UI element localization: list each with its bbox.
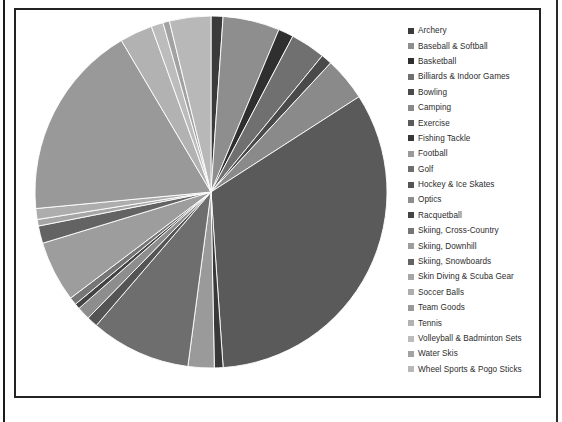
legend-swatch-icon <box>408 259 414 265</box>
legend-item-label: Basketball <box>418 57 456 66</box>
legend-swatch-icon <box>408 305 414 311</box>
legend-swatch-icon <box>408 320 414 326</box>
legend-swatch-icon <box>408 135 414 141</box>
chart-frame: ArcheryBaseball & SoftballBasketballBill… <box>14 8 541 398</box>
legend-swatch-icon <box>408 228 414 234</box>
legend-swatch-icon <box>408 274 414 280</box>
legend-item[interactable]: Skin Diving & Scuba Gear <box>408 269 538 284</box>
legend-item[interactable]: Golf <box>408 162 538 177</box>
legend-item[interactable]: Soccer Balls <box>408 285 538 300</box>
legend-item-label: Skiing, Snowboards <box>418 257 491 266</box>
legend-item-label: Skiing, Cross-Country <box>418 226 499 235</box>
legend-item-label: Exercise <box>418 119 450 128</box>
legend-swatch-icon <box>408 151 414 157</box>
legend-swatch-icon <box>408 182 414 188</box>
page-canvas: ArcheryBaseball & SoftballBasketballBill… <box>0 0 562 422</box>
legend-item-label: Hockey & Ice Skates <box>418 180 495 189</box>
legend-swatch-icon <box>408 58 414 64</box>
legend-item-label: Soccer Balls <box>418 288 464 297</box>
legend-item[interactable]: Skiing, Downhill <box>408 238 538 253</box>
legend-item[interactable]: Hockey & Ice Skates <box>408 177 538 192</box>
legend-item[interactable]: Volleyball & Badminton Sets <box>408 331 538 346</box>
pie-chart[interactable] <box>35 16 387 368</box>
legend-swatch-icon <box>408 28 414 34</box>
page-edge-left <box>3 0 5 422</box>
legend-item-label: Golf <box>418 165 433 174</box>
legend-item[interactable]: Team Goods <box>408 300 538 315</box>
legend-item-label: Volleyball & Badminton Sets <box>418 334 522 343</box>
page-artifact <box>150 405 270 413</box>
pie-svg <box>35 16 387 368</box>
legend-item-label: Water Skis <box>418 349 458 358</box>
legend-swatch-icon <box>408 166 414 172</box>
legend-swatch-icon <box>408 212 414 218</box>
legend-item[interactable]: Racquetball <box>408 208 538 223</box>
chart-legend: ArcheryBaseball & SoftballBasketballBill… <box>408 23 538 377</box>
legend-item[interactable]: Skiing, Snowboards <box>408 254 538 269</box>
legend-swatch-icon <box>408 366 414 372</box>
legend-item[interactable]: Bowling <box>408 85 538 100</box>
legend-swatch-icon <box>408 351 414 357</box>
legend-item-label: Tennis <box>418 319 442 328</box>
legend-swatch-icon <box>408 43 414 49</box>
legend-item-label: Archery <box>418 26 447 35</box>
legend-item-label: Wheel Sports & Pogo Sticks <box>418 365 522 374</box>
legend-item-label: Camping <box>418 103 451 112</box>
legend-item-label: Skin Diving & Scuba Gear <box>418 272 514 281</box>
legend-item-label: Billiards & Indoor Games <box>418 72 510 81</box>
legend-swatch-icon <box>408 105 414 111</box>
legend-swatch-icon <box>408 197 414 203</box>
legend-item[interactable]: Camping <box>408 100 538 115</box>
legend-item[interactable]: Baseball & Softball <box>408 38 538 53</box>
legend-item-label: Skiing, Downhill <box>418 242 477 251</box>
legend-item-label: Optics <box>418 195 442 204</box>
legend-swatch-icon <box>408 336 414 342</box>
legend-swatch-icon <box>408 120 414 126</box>
legend-item[interactable]: Optics <box>408 192 538 207</box>
legend-item-label: Team Goods <box>418 303 465 312</box>
pie-slice-group <box>35 16 387 368</box>
legend-swatch-icon <box>408 89 414 95</box>
legend-item[interactable]: Football <box>408 146 538 161</box>
legend-item-label: Bowling <box>418 88 447 97</box>
legend-item[interactable]: Fishing Tackle <box>408 131 538 146</box>
legend-item[interactable]: Basketball <box>408 54 538 69</box>
legend-item-label: Racquetball <box>418 211 462 220</box>
legend-item[interactable]: Tennis <box>408 315 538 330</box>
legend-swatch-icon <box>408 289 414 295</box>
legend-item[interactable]: Wheel Sports & Pogo Sticks <box>408 362 538 377</box>
legend-item-label: Baseball & Softball <box>418 42 488 51</box>
legend-item[interactable]: Skiing, Cross-Country <box>408 223 538 238</box>
legend-item[interactable]: Exercise <box>408 115 538 130</box>
legend-item-label: Fishing Tackle <box>418 134 470 143</box>
legend-item-label: Football <box>418 149 448 158</box>
legend-item[interactable]: Billiards & Indoor Games <box>408 69 538 84</box>
legend-swatch-icon <box>408 243 414 249</box>
legend-swatch-icon <box>408 74 414 80</box>
page-edge-right <box>556 0 558 422</box>
legend-item[interactable]: Water Skis <box>408 346 538 361</box>
legend-item[interactable]: Archery <box>408 23 538 38</box>
